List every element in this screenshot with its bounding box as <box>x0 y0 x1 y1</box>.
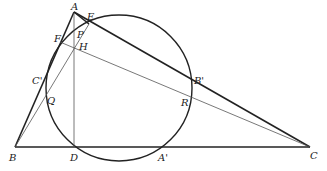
label-p: P <box>76 29 84 40</box>
label-r: R <box>180 97 189 108</box>
label-h: H <box>78 41 88 52</box>
altitude-be <box>15 24 89 147</box>
label-b: B <box>8 152 16 163</box>
label-a: A <box>70 1 78 12</box>
side-ab <box>15 12 74 147</box>
label-c: C <box>310 150 318 161</box>
label-a-prime: A' <box>157 152 168 163</box>
label-e: E <box>86 11 95 22</box>
label-q: Q <box>47 95 55 106</box>
label-d: D <box>69 152 78 163</box>
label-b-prime: B' <box>193 75 204 86</box>
label-f: F <box>53 33 62 44</box>
label-c-prime: C' <box>32 75 42 86</box>
geometry-diagram: A E F P H C' Q B' R B D A' C <box>0 0 327 171</box>
side-ac <box>74 12 310 147</box>
